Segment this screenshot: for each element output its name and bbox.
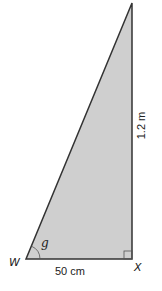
height-length-label: 1.2 m xyxy=(136,112,147,140)
vertex-label-w: W xyxy=(9,257,20,268)
triangle-diagram xyxy=(0,0,162,291)
vertex-label-x: X xyxy=(134,262,142,273)
base-length-label: 50 cm xyxy=(55,266,85,277)
triangle-shape xyxy=(26,3,132,259)
angle-label-g: g xyxy=(41,237,49,249)
